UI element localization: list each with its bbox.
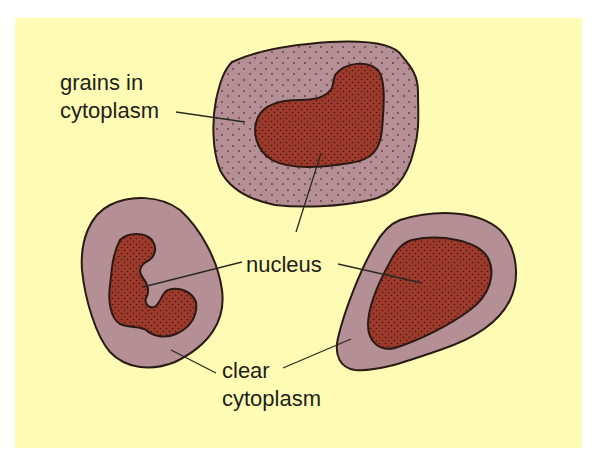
cell-diagram: grains in cytoplasm nucleus clear cytopl… xyxy=(0,0,604,459)
label-nucleus: nucleus xyxy=(246,252,322,277)
label-clear-line1: clear xyxy=(222,358,270,383)
label-clear-line2: cytoplasm xyxy=(222,386,321,411)
label-grains-line1: grains in xyxy=(60,70,143,95)
diagram-canvas: grains in cytoplasm nucleus clear cytopl… xyxy=(0,0,604,459)
label-grains-line2: cytoplasm xyxy=(60,98,159,123)
granular-cell xyxy=(213,42,418,207)
